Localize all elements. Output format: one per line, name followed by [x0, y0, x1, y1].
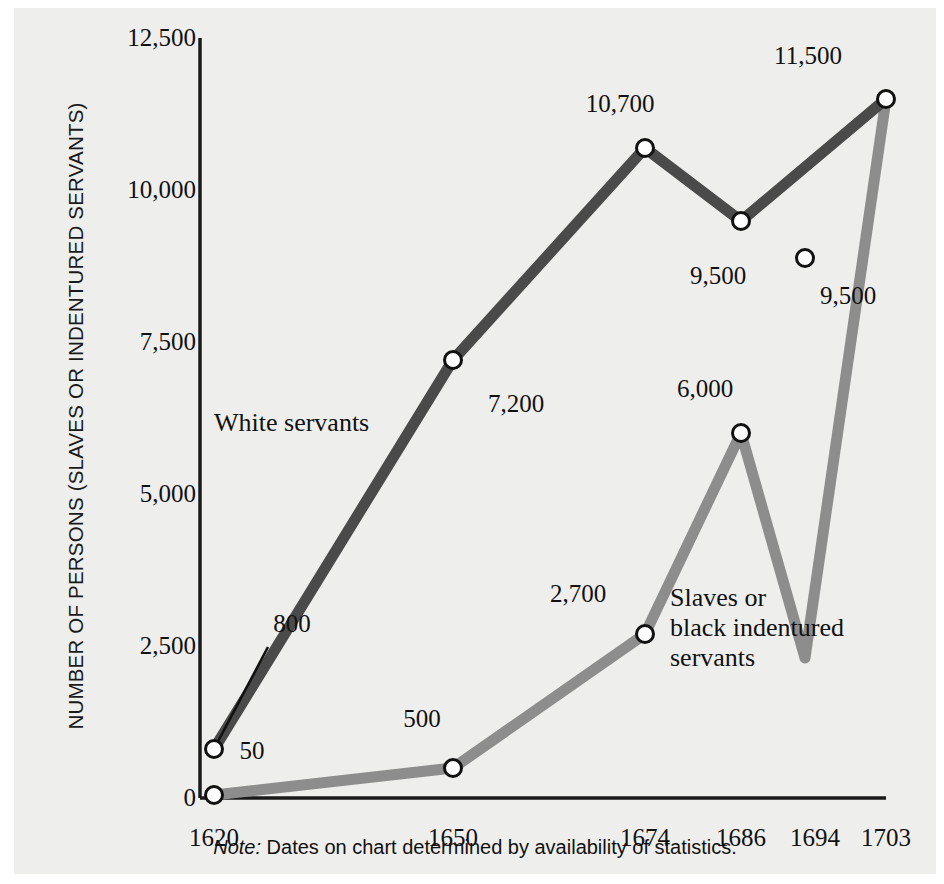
point-label-white-7200: 7,200 [488, 390, 544, 418]
y-tick-10000: 10,000 [76, 176, 196, 204]
leader-line-800 [214, 647, 268, 749]
data-point-white-1620 [206, 741, 223, 758]
note-text: Dates on chart determined by availabilit… [261, 836, 737, 858]
data-point-slaves-1620 [206, 787, 223, 804]
data-point-white-1650 [445, 352, 462, 369]
chart-note: Note: Dates on chart determined by avail… [14, 836, 936, 859]
y-tick-0: 0 [76, 784, 196, 812]
y-axis-tick-labels: 12,500 10,000 7,500 5,000 2,500 0 [76, 8, 196, 874]
point-label-slaves-9500: 9,500 [820, 282, 876, 310]
point-label-slaves-50: 50 [240, 737, 265, 765]
point-label-white-10700: 10,700 [586, 90, 655, 118]
y-tick-5000: 5,000 [76, 480, 196, 508]
point-label-slaves-6000: 6,000 [677, 375, 733, 403]
y-tick-12500: 12,500 [76, 24, 196, 52]
data-point-white-1703 [878, 91, 895, 108]
point-label-white-9500: 9,500 [690, 262, 746, 290]
chart-page: NUMBER OF PERSONS (SLAVES OR INDENTURED … [0, 0, 944, 884]
plot-area: 800 7,200 10,700 9,500 11,500 50 500 2,7… [200, 38, 900, 798]
series-line-slaves [214, 99, 886, 795]
data-point-slaves-1650 [445, 760, 462, 777]
data-point-slaves-1686 [733, 425, 750, 442]
point-label-white-800: 800 [273, 610, 311, 638]
slaves-series-label: Slaves or black indentured servants [670, 583, 844, 673]
point-label-slaves-2700: 2,700 [550, 580, 606, 608]
data-point-white-1674 [637, 140, 654, 157]
data-point-slaves-1694 [797, 250, 814, 267]
point-label-white-11500: 11,500 [774, 42, 842, 70]
point-label-slaves-500: 500 [403, 705, 441, 733]
white-servants-series-label: White servants [214, 408, 369, 438]
chart-canvas: NUMBER OF PERSONS (SLAVES OR INDENTURED … [14, 8, 936, 874]
note-prefix: Note: [213, 836, 261, 858]
data-point-slaves-1674 [637, 626, 654, 643]
data-point-white-1686 [733, 213, 750, 230]
y-tick-7500: 7,500 [76, 328, 196, 356]
y-tick-2500: 2,500 [76, 632, 196, 660]
